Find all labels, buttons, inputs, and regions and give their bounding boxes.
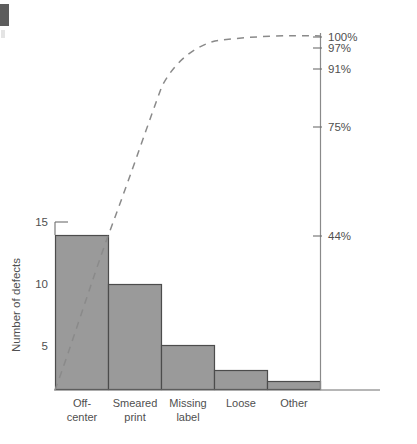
plot-area: 15 10 5 Number of defects 100% 97% 91% 7… — [0, 0, 417, 444]
cat-label-smeared-print-line2: print — [124, 411, 145, 423]
bar-loose — [215, 371, 268, 390]
left-axis-ticks — [55, 222, 68, 235]
cat-label-loose: Loose — [226, 397, 256, 409]
bar-smeared-print — [109, 285, 162, 390]
bars-group — [56, 236, 321, 390]
pareto-chart-svg: 15 10 5 Number of defects 100% 97% 91% 7… — [0, 0, 417, 444]
right-tick-label-75: 75% — [328, 121, 351, 133]
cat-label-missing-label-line1: Missing — [169, 397, 206, 409]
right-tick-label-44: 44% — [328, 230, 351, 242]
category-labels: Off- center Smeared print Missing label … — [67, 397, 308, 423]
y-axis-title: Number of defects — [10, 258, 22, 352]
right-tick-label-97: 97% — [328, 42, 351, 54]
bar-missing-label — [162, 346, 215, 390]
left-tick-label-10: 10 — [35, 278, 48, 290]
right-tick-label-91: 91% — [328, 63, 351, 75]
cat-label-smeared-print-line1: Smeared — [113, 397, 158, 409]
bar-other — [268, 382, 321, 390]
cat-label-other: Other — [280, 397, 308, 409]
left-tick-label-5: 5 — [42, 340, 48, 352]
cat-label-off-center-line2: center — [67, 411, 98, 423]
cat-label-missing-label-line2: label — [176, 411, 199, 423]
cat-label-off-center-line1: Off- — [73, 397, 91, 409]
left-tick-label-15: 15 — [35, 216, 48, 228]
pareto-chart-figure: 15 10 5 Number of defects 100% 97% 91% 7… — [0, 0, 417, 444]
